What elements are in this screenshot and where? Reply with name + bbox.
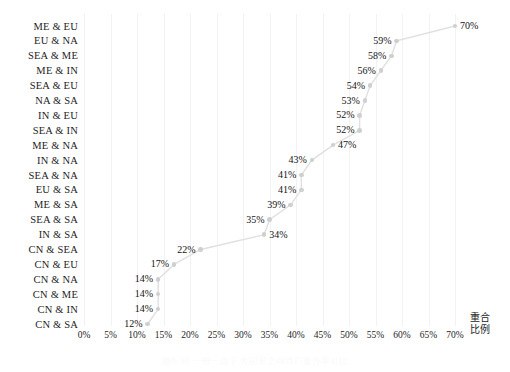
category-label-row: NA & SA [0,95,78,106]
category-label: EU & SA [36,184,78,195]
x-axis-title: 重合 比例 [470,312,508,336]
category-label-row: CN & EU [0,259,78,270]
category-label-row: SEA & SA [0,214,78,225]
category-label: NA & SA [35,95,78,106]
data-point-label: 14% [135,304,158,314]
gridline-60pct [402,14,403,326]
category-label-row: ME & SA [0,199,78,210]
category-label-row: ME & NA [0,140,78,151]
category-label: EU & NA [34,35,78,46]
category-label-row: IN & NA [0,155,78,166]
data-point-label: 54% [347,81,370,91]
category-label: IN & EU [38,110,78,121]
gridline-45pct [323,14,324,326]
data-point-label: 12% [124,319,147,329]
category-label: ME & EU [33,21,78,32]
category-label: CN & SEA [29,244,78,255]
category-label: CN & ME [33,289,78,300]
category-label: CN & EU [35,259,78,270]
category-label: CN & NA [33,274,78,285]
category-label-row: ME & IN [0,65,78,76]
data-point-label: 22% [177,245,200,255]
category-label: SEA & SA [30,214,78,225]
data-point-label: 39% [267,200,290,210]
gridline-70pct [455,14,456,326]
gridline-65pct [429,14,430,326]
gridline-15pct [164,14,165,326]
gridline-55pct [376,14,377,326]
gridline-20pct [190,14,191,326]
data-point-label: 70% [455,21,478,31]
gridline-25pct [217,14,218,326]
data-point-label: 52% [336,110,359,120]
data-point-label: 34% [264,230,287,240]
data-point-label: 58% [368,51,391,61]
category-label: CN & IN [38,304,78,315]
category-label: IN & NA [37,155,78,166]
data-point-label: 35% [246,215,269,225]
category-label: IN & SA [39,229,78,240]
x-axis-title-line1: 重合 [470,312,508,324]
category-label-row: ME & EU [0,21,78,32]
category-label-row: EU & NA [0,35,78,46]
data-point-label: 53% [342,96,365,106]
category-label: SEA & IN [33,125,78,136]
overlap-ratio-chart: ME & EUEU & NASEA & MEME & INSEA & EUNA … [0,0,510,372]
data-point-label: 47% [333,140,356,150]
data-point-label: 52% [336,125,359,135]
category-label-row: IN & SA [0,229,78,240]
gridline-0pct [84,14,85,326]
gridline-50pct [349,14,350,326]
category-label: ME & SA [34,199,78,210]
category-label: SEA & ME [28,50,78,61]
gridline-5pct [111,14,112,326]
data-point-label: 43% [289,155,312,165]
data-point-label: 17% [151,259,174,269]
data-point-label: 14% [135,274,158,284]
category-label-row: CN & SA [0,319,78,330]
data-point-label: 14% [135,289,158,299]
gridline-30pct [243,14,244,326]
data-point-label: 59% [373,36,396,46]
category-label: SEA & EU [30,80,78,91]
category-label-row: CN & ME [0,289,78,300]
data-point-label: 41% [278,185,301,195]
category-label-row: CN & NA [0,274,78,285]
data-point-label: 56% [357,66,380,76]
category-label-row: SEA & ME [0,50,78,61]
category-label-row: EU & SA [0,184,78,195]
figure-caption: 图4-30 一带一路下 各国家之间用户重合率对比 [0,354,510,366]
gridline-35pct [270,14,271,326]
category-label: ME & NA [32,140,78,151]
category-label: ME & IN [36,65,78,76]
category-label-row: SEA & IN [0,125,78,136]
data-point-label: 41% [278,170,301,180]
category-label-row: SEA & EU [0,80,78,91]
category-label: SEA & NA [29,170,78,181]
category-label: CN & SA [35,319,78,330]
category-label-row: SEA & NA [0,170,78,181]
x-tick-label: 70% [435,330,475,340]
x-axis-title-line2: 比例 [470,324,508,336]
category-label-row: CN & SEA [0,244,78,255]
category-label-row: CN & IN [0,304,78,315]
category-label-row: IN & EU [0,110,78,121]
